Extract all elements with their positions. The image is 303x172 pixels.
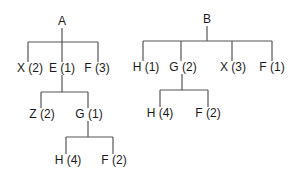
tree-node-f3: F (3) — [84, 62, 109, 74]
root-node-a: A — [58, 15, 66, 27]
tree-node-g2: G (2) — [169, 61, 196, 73]
tree-node-g1: G (1) — [75, 108, 102, 120]
tree-node-h1: H (1) — [133, 61, 160, 73]
tree-node-f2b: F (2) — [195, 107, 220, 119]
tree-node-e1: E (1) — [49, 62, 75, 74]
tree-diagram-canvas: AX (2)E (1)F (3)Z (2)G (1)H (4)F (2) BH … — [0, 0, 303, 172]
tree-node-x2: X (2) — [17, 62, 43, 74]
tree-node-x3: X (3) — [220, 61, 246, 73]
tree-connectors — [0, 0, 303, 172]
tree-node-h4a: H (4) — [55, 154, 82, 166]
tree-node-z2: Z (2) — [29, 108, 54, 120]
root-node-b: B — [203, 13, 211, 25]
tree-node-f2a: F (2) — [101, 154, 126, 166]
tree-node-h4b: H (4) — [147, 107, 174, 119]
tree-node-f1: F (1) — [259, 61, 284, 73]
